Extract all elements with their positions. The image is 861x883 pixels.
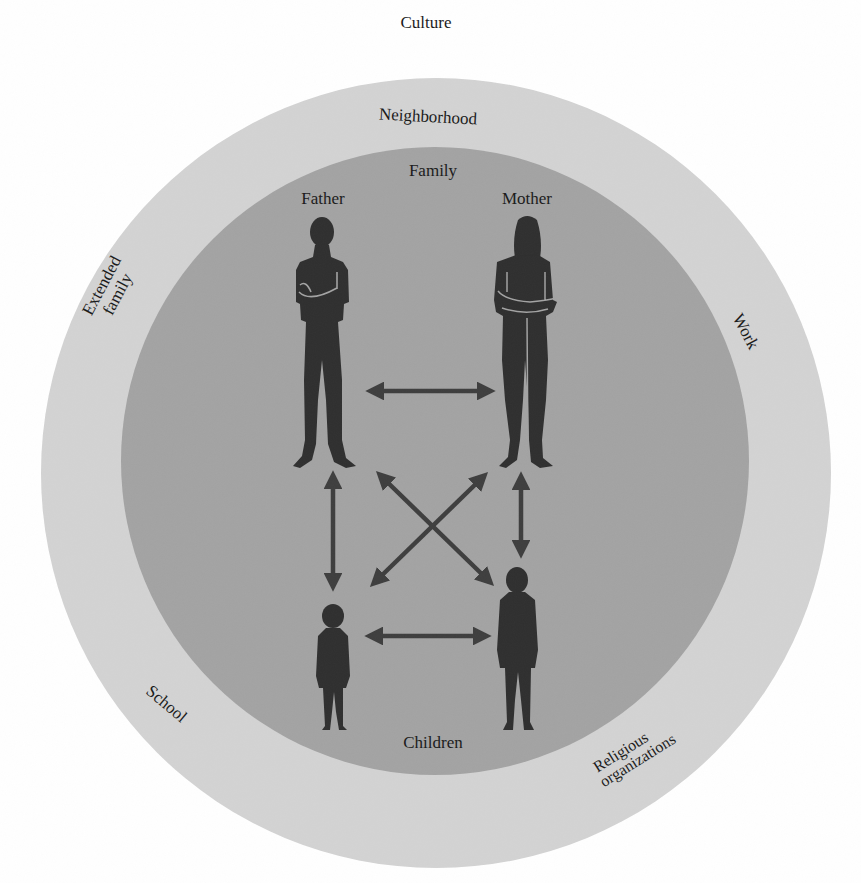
print-texture [0,0,861,883]
family-systems-diagram: Culture Neighborhood Extended family Wor… [0,0,861,883]
